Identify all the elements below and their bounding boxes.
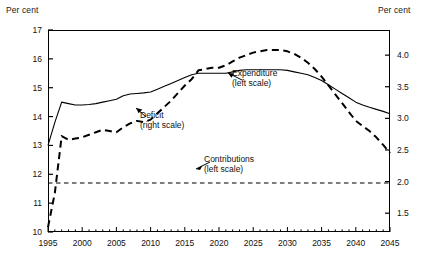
series-line-2 bbox=[48, 50, 390, 227]
chart-container: Per cent Per cent 1011121314151617 1.52.… bbox=[0, 0, 430, 260]
contributions-arrowhead bbox=[196, 166, 202, 171]
expenditure-annotation-line1: Expenditure bbox=[232, 68, 277, 78]
expenditure-annotation-line2: (left scale) bbox=[232, 78, 277, 88]
data-series bbox=[48, 50, 390, 227]
contributions-annotation-line1: Contributions bbox=[204, 154, 254, 164]
contributions-annotation-line2: (left scale) bbox=[204, 164, 254, 174]
deficit-annotation-line1: Deficit bbox=[140, 110, 184, 120]
deficit-annotation-line2: (right scale) bbox=[140, 120, 184, 130]
series-line-1 bbox=[48, 70, 390, 146]
contributions-annotation: Contributions (left scale) bbox=[204, 154, 254, 174]
expenditure-annotation: Expenditure (left scale) bbox=[232, 68, 277, 88]
deficit-annotation: Deficit (right scale) bbox=[140, 110, 184, 130]
chart-plot-svg bbox=[0, 0, 430, 260]
